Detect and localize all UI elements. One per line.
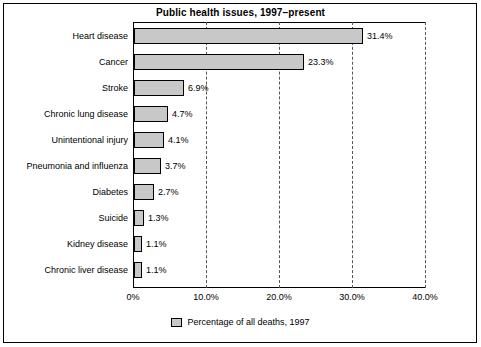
category-label: Kidney disease (67, 238, 128, 250)
legend-entry[interactable]: Percentage of all deaths, 1997 (171, 317, 309, 327)
gridline-40 (425, 22, 426, 288)
bar-value-label: 3.7% (165, 160, 186, 172)
legend-label: Percentage of all deaths, 1997 (187, 317, 309, 327)
bar-chronic-lung-disease[interactable] (134, 106, 168, 122)
plot-area: 31.4% 23.3% 6.9% 4.7% 4.1% 3.7% 2.7% 1.3… (133, 22, 426, 288)
bar-value-label: 4.1% (168, 134, 189, 146)
category-label: Chronic liver disease (44, 264, 128, 276)
category-label: Unintentional injury (51, 134, 128, 146)
bar-diabetes[interactable] (134, 184, 154, 200)
legend-swatch-icon (171, 318, 182, 327)
x-tick-label-20: 20.0% (255, 292, 303, 302)
bar-value-label: 1.1% (146, 238, 167, 250)
x-tick-label-40: 40.0% (401, 292, 449, 302)
x-tick-label-0: 0% (123, 292, 143, 302)
category-label: Suicide (98, 212, 128, 224)
category-label: Heart disease (72, 30, 128, 42)
category-label: Diabetes (92, 186, 128, 198)
category-label: Pneumonia and influenza (26, 160, 128, 172)
chart-container: Public health issues, 1997–present Heart… (0, 0, 481, 347)
category-label: Cancer (99, 56, 128, 68)
bar-chronic-liver-disease[interactable] (134, 262, 142, 278)
bar-stroke[interactable] (134, 80, 184, 96)
bar-heart-disease[interactable] (134, 28, 363, 44)
bar-value-label: 1.3% (148, 212, 169, 224)
bar-value-label: 2.7% (158, 186, 179, 198)
bar-unintentional-injury[interactable] (134, 132, 164, 148)
x-tick-label-30: 30.0% (328, 292, 376, 302)
bar-value-label: 6.9% (188, 82, 209, 94)
bar-pneumonia-and-influenza[interactable] (134, 158, 161, 174)
bar-value-label: 4.7% (172, 108, 193, 120)
bar-value-label: 23.3% (308, 56, 334, 68)
bar-cancer[interactable] (134, 54, 304, 70)
bar-value-label: 1.1% (146, 264, 167, 276)
bar-kidney-disease[interactable] (134, 236, 142, 252)
x-tick-label-10: 10.0% (182, 292, 230, 302)
category-label: Chronic lung disease (44, 108, 128, 120)
bar-value-label: 31.4% (367, 30, 393, 42)
y-axis-category-labels: Heart disease Cancer Stroke Chronic lung… (0, 22, 128, 288)
bar-suicide[interactable] (134, 210, 144, 226)
chart-legend: Percentage of all deaths, 1997 (0, 317, 481, 329)
category-label: Stroke (102, 82, 128, 94)
gridline-30 (352, 22, 353, 288)
chart-title: Public health issues, 1997–present (0, 7, 481, 18)
